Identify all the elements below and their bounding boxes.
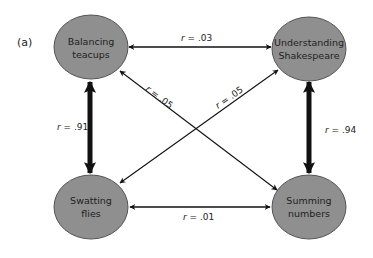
node-label-line: flies	[81, 208, 100, 219]
edge-label-teacups-numbers: r = .05	[144, 84, 175, 111]
node-label-line: Shakespeare	[278, 50, 339, 61]
node-label-line: Swatting	[70, 195, 112, 206]
edge-teacups-numbers	[120, 71, 277, 190]
node-shakespeare: Understanding Shakespeare	[272, 17, 346, 81]
edge-label-flies-numbers: r = .01	[183, 212, 214, 222]
node-label-line: teacups	[72, 49, 110, 60]
node-label-line: numbers	[288, 208, 330, 219]
node-label-line: Summing	[286, 195, 331, 206]
edge-label-teacups-flies: r = .91	[57, 122, 88, 132]
node-teacups: Balancing teacups	[54, 15, 128, 79]
node-numbers: Summing numbers	[272, 175, 346, 239]
edge-label-shakespeare-numbers: r = .94	[325, 125, 357, 135]
panel-label: (a)	[17, 36, 32, 49]
node-label-line: Balancing	[68, 36, 115, 47]
edge-flies-shakespeare	[120, 70, 278, 183]
edge-label-teacups-shakespeare: r = .03	[181, 33, 212, 43]
node-flies: Swatting flies	[54, 175, 128, 239]
correlation-diagram: (a) r = .03 r = .05 r = .05 r = .91 r = …	[0, 0, 373, 258]
node-label-line: Understanding	[274, 37, 344, 48]
